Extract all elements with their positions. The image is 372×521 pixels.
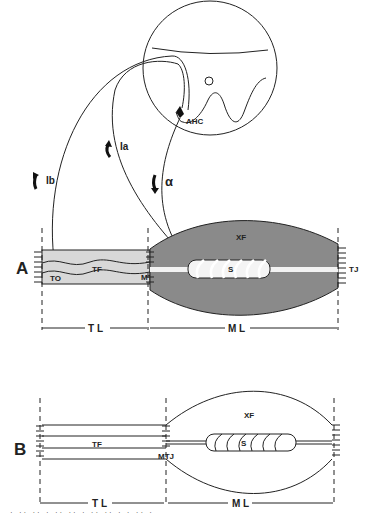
ahc-label: AHC: [186, 117, 204, 126]
ia-arrow-icon: [107, 145, 110, 157]
ib-label: Ib: [46, 175, 55, 186]
to-label: TO: [50, 274, 61, 283]
tf-label-a: TF: [92, 265, 102, 274]
xf-label-a: XF: [236, 233, 246, 242]
alpha-arrow-icon: [154, 175, 156, 189]
alpha-arrowhead-icon: [151, 188, 159, 194]
tf-label-b: TF: [92, 440, 102, 449]
alpha-label: α: [165, 174, 173, 189]
muscle-spindle-diagram: AHC Ib Ia α A TF TO MTJ S XF TJ: [0, 0, 372, 521]
dim-lines-b: [40, 398, 334, 505]
spinal-cord-section: [143, 1, 277, 135]
ia-arrowhead-icon: [105, 140, 112, 147]
tj-label: TJ: [349, 265, 358, 274]
nerve-pathways: [52, 55, 190, 268]
xf-label-b: XF: [244, 411, 254, 420]
panel-a-label: A: [16, 259, 28, 278]
panel-b-label: B: [14, 440, 26, 459]
s-label-a: S: [228, 265, 234, 274]
tl-dim-a: T L: [88, 323, 103, 334]
figure-caption-truncated: · ·· ·· · ·· ·· · ·· ·· · · ·· ·: [10, 508, 365, 518]
ia-label: Ia: [120, 141, 129, 152]
ml-dim-a: M L: [228, 323, 245, 334]
s-label-b: S: [241, 439, 247, 448]
